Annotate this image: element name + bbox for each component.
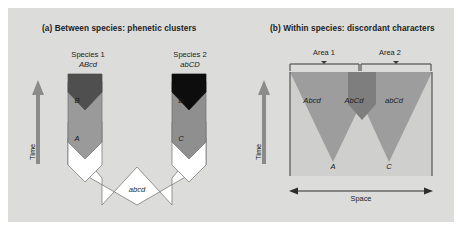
space-axis-label: Space bbox=[288, 194, 434, 203]
species-1-code: ABcd bbox=[58, 60, 118, 69]
character-label-Abcd: Abcd bbox=[296, 96, 328, 105]
species-2-ancestral-label: C bbox=[169, 134, 193, 143]
panel-b-space-time-field bbox=[288, 70, 434, 178]
ancestor-label: abcd bbox=[116, 185, 158, 194]
wedge-tip-label-A: A bbox=[321, 162, 345, 171]
character-label-abCd: abCd bbox=[378, 96, 410, 105]
figure-container: (a) Between species: phenetic clusters T… bbox=[8, 8, 454, 222]
area-2-label: Area 2 bbox=[362, 48, 418, 57]
character-label-AbCd: AbCd bbox=[338, 96, 370, 105]
panel-b-time-label: Time bbox=[254, 144, 263, 160]
wedge-tip-label-C: C bbox=[377, 162, 401, 171]
species-2-name: Species 2 bbox=[160, 50, 220, 59]
area-1-label: Area 1 bbox=[296, 48, 352, 57]
panel-a-time-label: Time bbox=[28, 144, 37, 160]
species-2-derived-label: D bbox=[169, 96, 193, 105]
species-2-code: abCD bbox=[160, 60, 220, 69]
figure-inner: (a) Between species: phenetic clusters T… bbox=[8, 8, 454, 222]
panel-b-title: (b) Within species: discordant character… bbox=[270, 24, 435, 33]
panel-a-title: (a) Between species: phenetic clusters bbox=[42, 24, 196, 33]
species-1-name: Species 1 bbox=[58, 50, 118, 59]
panel-a: (a) Between species: phenetic clusters T… bbox=[8, 8, 234, 222]
species-1-ancestral-label: A bbox=[65, 134, 89, 143]
species-1-derived-label: B bbox=[65, 96, 89, 105]
panel-b: (b) Within species: discordant character… bbox=[234, 8, 454, 222]
